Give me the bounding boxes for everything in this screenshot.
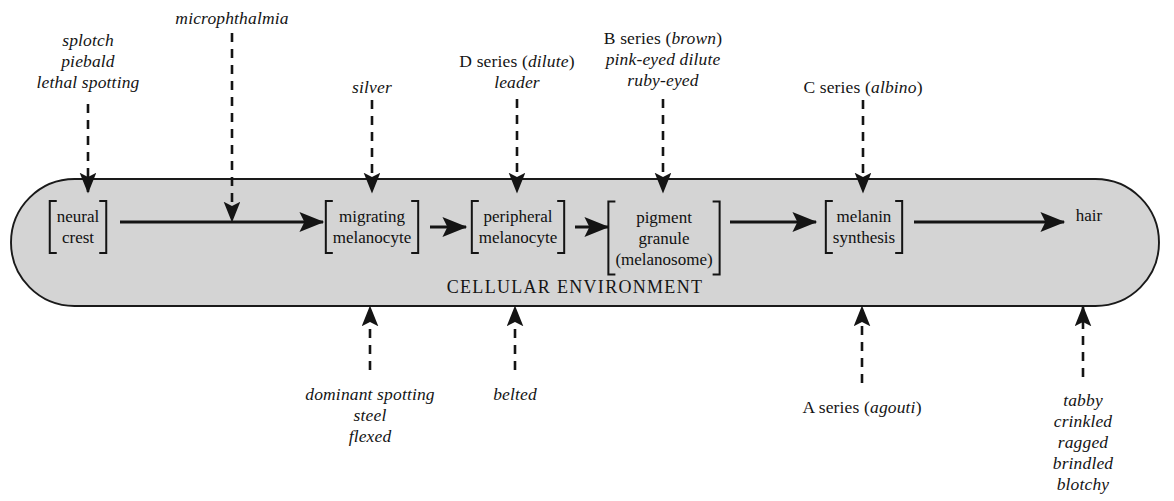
label-line: brindled [1053,453,1114,474]
cellular-environment-title: CELLULAR ENVIRONMENT [447,277,703,298]
diagram-canvas [0,0,1174,501]
label-line: tabby [1053,390,1114,411]
label-line: A series (agouti) [802,397,921,418]
node-line: peripheral [479,206,557,227]
label-microphthalmia: microphthalmia [175,8,288,29]
label-c-series-albino: C series (albino) [803,77,922,98]
label-line: silver [352,77,392,98]
label-line: splotch [37,30,140,51]
label-line: crinkled [1053,411,1114,432]
node-melanin-synthesis: melaninsynthesis [833,206,895,248]
label-silver: silver [352,77,392,98]
label-b-series-group: B series (brown)pink-eyed diluteruby-eye… [604,28,722,91]
node-line: crest [57,227,99,248]
node-line: melanocyte [333,227,411,248]
bottom-dashed-arrows [370,307,1083,383]
node-line: synthesis [833,227,895,248]
node-line: melanocyte [479,227,557,248]
label-dominant-spotting-group: dominant spottingsteelflexed [305,384,434,447]
node-line: granule [615,228,712,249]
node-peripheral-melanocyte: peripheralmelanocyte [479,206,557,248]
node-line: hair [1076,205,1102,226]
label-line: belted [493,384,537,405]
label-line: blotchy [1053,474,1114,495]
node-hair: hair [1076,205,1102,226]
label-tabby-group: tabbycrinkledraggedbrindledblotchy [1053,390,1114,495]
label-line: lethal spotting [37,72,140,93]
label-line: dominant spotting [305,384,434,405]
label-line: piebald [37,51,140,72]
label-line: ruby-eyed [604,70,722,91]
label-belted: belted [493,384,537,405]
label-line: leader [459,72,574,93]
label-a-series-agouti: A series (agouti) [802,397,921,418]
node-line: (melanosome) [615,249,712,270]
label-line: B series (brown) [604,28,722,49]
node-line: neural [57,206,99,227]
label-splotch-group: splotchpiebaldlethal spotting [37,30,140,93]
node-neural-crest: neuralcrest [57,206,99,248]
label-line: pink-eyed dilute [604,49,722,70]
label-line: flexed [305,426,434,447]
node-pigment-granule: pigmentgranule(melanosome) [615,207,712,270]
label-line: D series (dilute) [459,51,574,72]
label-line: C series (albino) [803,77,922,98]
node-line: pigment [615,207,712,228]
label-d-series-leader: D series (dilute)leader [459,51,574,93]
node-migrating-melanocyte: migratingmelanocyte [333,206,411,248]
label-line: ragged [1053,432,1114,453]
label-line: microphthalmia [175,8,288,29]
label-line: steel [305,405,434,426]
node-line: migrating [333,206,411,227]
node-line: melanin [833,206,895,227]
